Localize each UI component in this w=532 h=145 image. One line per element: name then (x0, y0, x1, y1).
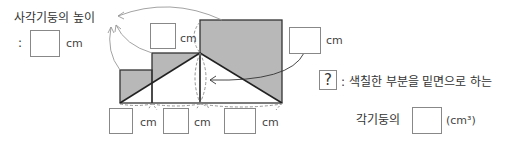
arrowhead-small (108, 27, 114, 33)
bottom-1-unit: cm (140, 116, 157, 129)
dashed-arc-left-mid (195, 53, 200, 103)
arrowhead-large (118, 12, 124, 19)
question-line-1: : 색칠한 부분을 밑면으로 하는 (341, 72, 492, 89)
dashed-tick-1 (148, 103, 157, 110)
dashed-bottom-2 (152, 104, 200, 106)
dashed-bottom-3 (200, 104, 282, 107)
volume-answer-box[interactable] (412, 107, 442, 134)
dashed-tick-3 (276, 103, 282, 110)
arrow-from-large (118, 7, 222, 20)
middle-height-answer-box[interactable] (150, 23, 176, 49)
question-line-2: 각기둥의 (356, 110, 400, 127)
large-height-unit: cm (326, 34, 343, 47)
bottom-1-answer-box[interactable] (109, 108, 133, 134)
bottom-3-answer-box[interactable] (224, 108, 256, 134)
bottom-2-answer-box[interactable] (163, 108, 189, 134)
bottom-2-unit: cm (194, 116, 211, 129)
volume-unit: (cm³) (446, 114, 476, 127)
bottom-3-unit: cm (262, 116, 279, 129)
question-mark-box: ? (319, 70, 337, 90)
arrow-from-middle (116, 25, 152, 53)
large-height-answer-box[interactable] (289, 27, 321, 54)
arrow-from-small (110, 27, 120, 70)
shaded-large-region (200, 20, 282, 103)
middle-height-unit: cm (180, 32, 197, 45)
dashed-arc-mid (200, 53, 206, 103)
dashed-bottom-1 (120, 104, 152, 106)
